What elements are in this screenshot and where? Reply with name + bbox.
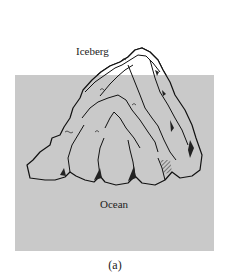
iceberg-figure: Iceberg Ocean (a) [0,0,230,277]
iceberg-label: Iceberg [76,46,109,57]
figure-caption: (a) [0,258,230,273]
iceberg-illustration [0,0,230,277]
ocean-label: Ocean [100,199,128,210]
